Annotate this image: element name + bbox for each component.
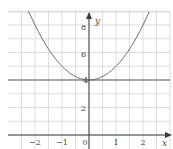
y-tick-8: 8 (81, 23, 86, 32)
x-tick-minus-2: −2 (29, 138, 41, 147)
x-tick-1: 1 (113, 138, 118, 147)
y-tick-6: 6 (81, 50, 86, 59)
origin-label: 0 (82, 138, 87, 147)
y-tick-4: 4 (83, 76, 88, 85)
x-tick-minus-1: −1 (56, 138, 68, 147)
x-tick-2: 2 (140, 138, 145, 147)
y-axis-label: y (94, 16, 101, 26)
y-tick-2: 2 (81, 104, 86, 113)
x-axis-label: x (162, 138, 167, 148)
parabola-curve (28, 12, 150, 80)
y-axis-arrow-icon (86, 12, 92, 19)
function-graph: y x 8 6 4 2 −2 −1 0 1 2 (0, 0, 173, 149)
